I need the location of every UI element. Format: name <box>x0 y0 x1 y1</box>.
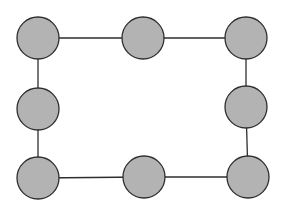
graph-diagram <box>0 0 288 214</box>
nodes-layer <box>17 17 269 199</box>
node-n7 <box>17 157 59 199</box>
node-n3 <box>225 17 267 59</box>
node-n1 <box>17 17 59 59</box>
node-n6 <box>123 156 165 198</box>
node-n2 <box>122 17 164 59</box>
node-n8 <box>17 88 59 130</box>
node-n5 <box>227 156 269 198</box>
node-n4 <box>225 86 267 128</box>
